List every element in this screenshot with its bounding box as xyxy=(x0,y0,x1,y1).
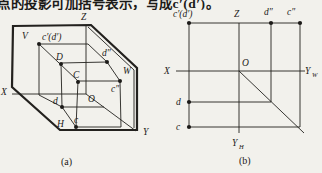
point-d xyxy=(187,100,191,104)
point-d-label: d xyxy=(176,97,181,107)
caption-b: (b) xyxy=(239,155,251,167)
point-C xyxy=(76,80,80,84)
axis-x-label: X xyxy=(163,66,171,76)
point-c-label: c xyxy=(176,122,181,132)
point-c xyxy=(187,125,191,129)
projector-D-d xyxy=(61,63,62,107)
caption-a: (a) xyxy=(61,156,72,168)
panel-b-projection-diagram: c′(d′) Z d″ c″ X O Y W d c Y H (b) xyxy=(163,7,318,167)
plane-h-label: H xyxy=(56,119,65,129)
axis-yw-sub-label: W xyxy=(312,71,318,78)
point-cprime2 xyxy=(118,79,122,83)
point-dprime2-label: d″ xyxy=(264,7,274,17)
point-d-label: d xyxy=(53,96,58,106)
axis-y-label: Y xyxy=(143,127,150,137)
point-cprime2 xyxy=(298,21,302,25)
point-C-label: C xyxy=(73,70,80,80)
cprime-label: c′(d′) xyxy=(42,32,61,43)
point-d xyxy=(60,105,64,109)
panel-a-axonometric: V c′(d′) Z D C d″ W X O c″ d H c Y (a) xyxy=(0,12,150,168)
cprime2-vertical xyxy=(120,81,121,127)
point-c xyxy=(74,125,78,129)
axis-z-label: Z xyxy=(234,9,240,19)
axis-yw-label: Y xyxy=(305,66,312,76)
plane-w-label: W xyxy=(123,66,132,76)
origin-label: O xyxy=(88,94,95,104)
point-cprime xyxy=(187,21,191,25)
point-D-label: D xyxy=(55,52,63,62)
axis-x-label: X xyxy=(0,87,8,97)
point-cprime xyxy=(37,42,41,46)
point-dprime2 xyxy=(105,60,109,64)
point-dprime2-label: d″ xyxy=(102,48,112,58)
scanned-textbook-page: 点的投影可加括号表示，写成c′(d′)。 xyxy=(0,0,322,173)
axis-yh-sub-label: H xyxy=(238,143,244,150)
point-dprime2 xyxy=(269,21,273,25)
axis-z-label: Z xyxy=(81,12,87,22)
cprime-label: c′(d′) xyxy=(173,9,192,20)
projector-D-dprime2 xyxy=(61,62,107,63)
projection-figure: V c′(d′) Z D C d″ W X O c″ d H c Y (a) xyxy=(0,0,322,173)
axis-yh-label: Y xyxy=(232,138,239,148)
point-c-label: c xyxy=(74,115,79,125)
origin-label: O xyxy=(242,58,249,68)
plane-v-label: V xyxy=(22,31,29,41)
point-cprime2-label: c″ xyxy=(111,84,120,94)
point-cprime2-label: c″ xyxy=(287,7,296,17)
point-D xyxy=(59,62,63,66)
